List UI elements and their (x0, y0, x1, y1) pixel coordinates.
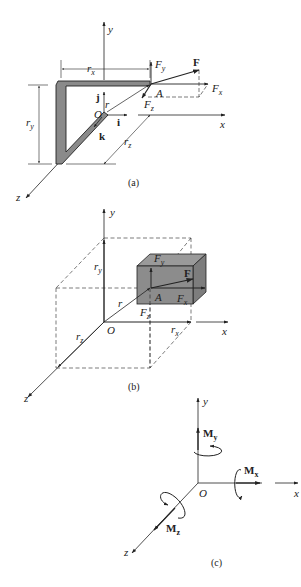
rx-label: rx (87, 62, 95, 77)
fz-label: Fz (143, 98, 155, 113)
caption-b: (b) (128, 381, 140, 393)
k-label: k (99, 130, 106, 142)
x-axis-label: x (219, 118, 225, 130)
j-label: j (95, 91, 100, 103)
x-axis-label: x (293, 487, 299, 499)
z-axis-label: z (123, 546, 129, 558)
fx-label: Fx (211, 82, 223, 97)
caption-a: (a) (128, 177, 139, 189)
r-label: r (105, 98, 110, 110)
x-axis-label: x (221, 325, 227, 337)
ry-label: ry (94, 260, 102, 275)
mx-label: Mx (244, 464, 258, 479)
fz-label: Fz (139, 306, 151, 321)
ry-label: ry (26, 116, 34, 131)
point-a-label: A (155, 87, 163, 99)
force-f (151, 70, 199, 84)
f-label: F (193, 56, 200, 68)
rx-label: rx (171, 323, 179, 338)
point-a-label: A (154, 291, 162, 303)
panel-a: y x z rx ry rz r j i k O (15, 22, 225, 203)
position-vector-r (107, 85, 149, 112)
moment-mz-curl-icon (161, 492, 185, 518)
mz-label: Mz (166, 522, 180, 537)
y-axis-label: y (202, 395, 208, 407)
y-axis-label: y (107, 23, 113, 35)
z-axis-label: z (15, 191, 21, 203)
my-label: My (203, 427, 217, 442)
r-label: r (118, 297, 123, 309)
origin-label: O (107, 324, 115, 336)
z-axis-label: z (23, 392, 29, 404)
origin-label: O (199, 487, 207, 499)
rz-label: rz (76, 330, 84, 345)
caption-c: (c) (211, 557, 222, 569)
i-label: i (117, 116, 120, 128)
panel-c: y x z O My Mx Mz (c) (123, 395, 299, 569)
origin-label: O (94, 108, 102, 120)
fy-label: Fy (154, 58, 166, 73)
rz-label: rz (124, 135, 132, 150)
figure-canvas: y x z rx ry rz r j i k O (0, 0, 301, 587)
panel-b: y x z ry rx rz (23, 206, 228, 404)
force-component-box (137, 254, 206, 304)
y-axis-label: y (109, 206, 115, 218)
f-label: F (184, 267, 191, 279)
